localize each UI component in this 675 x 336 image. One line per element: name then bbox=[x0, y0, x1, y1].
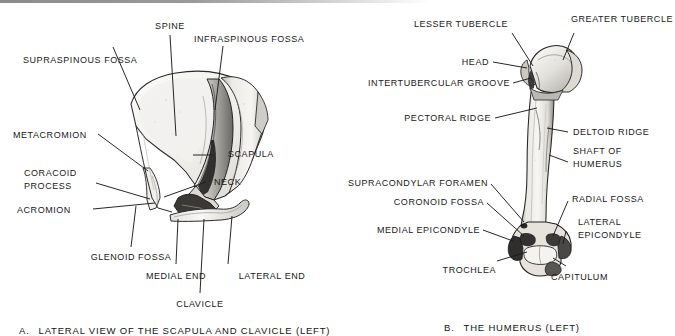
label-medial-end: MEDIAL END bbox=[146, 271, 206, 282]
label-supraspinous-fossa: SUPRASPINOUS FOSSA bbox=[23, 55, 137, 66]
label-spine: SPINE bbox=[155, 21, 185, 32]
label-trochlea: TROCHLEA bbox=[443, 265, 496, 276]
label-metacromion: METACROMION bbox=[13, 130, 87, 141]
label-coronoid-fossa: CORONOID FOSSA bbox=[394, 197, 484, 208]
label-clavicle: CLAVICLE bbox=[176, 299, 223, 310]
label-capitulum: CAPITULUM bbox=[551, 272, 608, 283]
anatomy-plate: SPINE INFRASPINOUS FOSSA SUPRASPINOUS FO… bbox=[0, 0, 675, 336]
caption-panel-b: B.THE HUMERUS (LEFT) bbox=[444, 322, 580, 333]
label-deltoid-ridge: DELTOID RIDGE bbox=[573, 127, 649, 138]
caption-panel-b-letter: B. bbox=[444, 322, 455, 333]
label-lateral-end: LATERAL END bbox=[239, 271, 306, 282]
label-coracoid-process-line1: CORACOID bbox=[24, 168, 77, 179]
label-greater-tubercle: GREATER TUBERCLE bbox=[571, 14, 673, 25]
label-supracondylar-foramen: SUPRACONDYLAR FORAMEN bbox=[348, 178, 488, 189]
label-infraspinous-fossa: INFRASPINOUS FOSSA bbox=[194, 34, 304, 45]
label-coracoid-process-line2: PROCESS bbox=[24, 181, 72, 192]
label-radial-fossa: RADIAL FOSSA bbox=[572, 194, 644, 205]
humerus-bone bbox=[508, 46, 582, 276]
label-lateral-epicondyle-line1: LATERAL bbox=[578, 217, 621, 228]
label-shaft-of-humerus-line1: SHAFT OF bbox=[573, 146, 622, 157]
label-glenoid-fossa: GLENOID FOSSA bbox=[91, 252, 172, 263]
label-neck: NECK bbox=[214, 177, 241, 188]
caption-panel-a: A.LATERAL VIEW OF THE SCAPULA AND CLAVIC… bbox=[19, 325, 330, 336]
caption-panel-a-text: LATERAL VIEW OF THE SCAPULA AND CLAVICLE… bbox=[39, 325, 331, 336]
label-intertubercular-groove: INTERTUBERCULAR GROOVE bbox=[368, 78, 510, 89]
scapula-bone bbox=[131, 71, 268, 219]
label-medial-epicondyle: MEDIAL EPICONDYLE bbox=[377, 225, 480, 236]
label-pectoral-ridge: PECTORAL RIDGE bbox=[404, 113, 491, 124]
label-lateral-epicondyle-line2: EPICONDYLE bbox=[578, 230, 642, 241]
caption-panel-b-text: THE HUMERUS (LEFT) bbox=[464, 322, 580, 333]
label-head: HEAD bbox=[462, 57, 489, 68]
label-scapula: SCAPULA bbox=[228, 149, 274, 160]
caption-panel-a-letter: A. bbox=[19, 325, 30, 336]
label-lesser-tubercle: LESSER TUBERCLE bbox=[414, 19, 508, 30]
label-shaft-of-humerus-line2: HUMERUS bbox=[573, 159, 622, 170]
label-acromion: ACROMION bbox=[17, 205, 71, 216]
